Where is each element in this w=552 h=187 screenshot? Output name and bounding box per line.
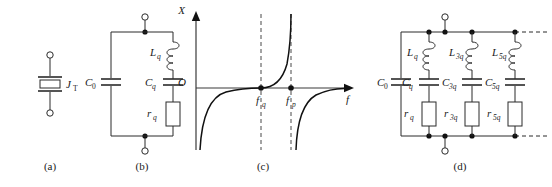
label-device: J <box>66 78 72 90</box>
label-lq: L <box>149 46 156 58</box>
junction-top-terminal <box>442 29 447 34</box>
panel-d-overtone-circuit: C 0 L q C q r q L 3q <box>385 0 552 160</box>
marker-fq <box>258 85 264 91</box>
label-cq-subscript: q <box>152 82 156 91</box>
label-r5q-subscript: 5q <box>493 113 501 122</box>
axis-x-label: f <box>346 93 351 105</box>
label-c5q-subscript: 5q <box>492 82 500 91</box>
inductor-l3q-icon <box>466 42 478 70</box>
label-device-subscript: T <box>73 84 78 93</box>
label-cq-subscript: q <box>409 82 413 91</box>
quartz-blank-icon <box>40 80 60 88</box>
label-r5q: r <box>487 107 492 119</box>
terminal-bottom-icon <box>142 148 148 154</box>
caption-d: (d) <box>440 160 480 172</box>
panel-c-reactance-plot: X f O f q f p <box>186 0 376 160</box>
caption-c: (c) <box>243 160 283 172</box>
terminal-top-icon <box>442 14 448 20</box>
label-rq-subscript: q <box>410 113 414 122</box>
inductor-lq-icon <box>423 42 435 70</box>
label-r3q: r <box>444 107 449 119</box>
terminal-top-icon <box>142 14 148 20</box>
label-l5q-subscript: 5q <box>499 52 507 61</box>
caption-b: (b) <box>122 160 162 172</box>
label-l5q: L <box>491 46 498 58</box>
inductor-l5q-icon <box>509 42 521 70</box>
caption-a: (a) <box>30 160 70 172</box>
label-lq-subscript: q <box>414 52 418 61</box>
terminal-top-icon <box>47 52 53 58</box>
label-l3q: L <box>448 46 455 58</box>
panel-b-equivalent-circuit: C 0 L q C q r q <box>95 0 190 160</box>
label-fq: f <box>256 94 261 106</box>
resistor-r3q-icon <box>465 102 479 126</box>
label-c0-subscript: 0 <box>92 82 96 91</box>
label-r3q-subscript: 3q <box>449 113 458 122</box>
axis-x-arrow-icon <box>344 84 354 92</box>
axis-origin-label: O <box>178 76 186 88</box>
label-fq-subscript: q <box>262 100 266 109</box>
resistor-rq-icon <box>422 102 436 126</box>
inductor-lq-icon <box>167 42 179 70</box>
label-c3q-subscript: 3q <box>448 82 457 91</box>
marker-fp <box>288 85 294 91</box>
axis-y-label: X <box>177 4 186 16</box>
curve-branch-low <box>200 88 261 150</box>
curve-branch-high <box>296 89 344 151</box>
label-rq: r <box>147 107 152 119</box>
terminal-bottom-icon <box>47 110 53 116</box>
figure-crystal-equivalent-circuits: J T (a) C 0 L <box>0 0 552 187</box>
junction-bottom-terminal <box>442 133 447 138</box>
label-lq-subscript: q <box>157 52 161 61</box>
resistor-r5q-icon <box>508 102 522 126</box>
axis-y-arrow-icon <box>192 11 200 21</box>
label-c0-subscript: 0 <box>384 82 388 91</box>
panel-a-crystal-symbol: J T <box>0 0 110 160</box>
label-lq: L <box>406 46 413 58</box>
label-fp: f <box>286 94 291 106</box>
label-fp-subscript: p <box>291 100 296 109</box>
label-l3q-subscript: 3q <box>455 52 464 61</box>
resistor-rq-icon <box>166 102 180 126</box>
label-rq-subscript: q <box>153 113 157 122</box>
curve-branch-mid <box>261 14 291 88</box>
label-rq: r <box>404 107 409 119</box>
terminal-bottom-icon <box>442 148 448 154</box>
